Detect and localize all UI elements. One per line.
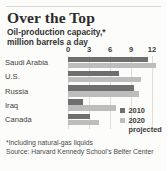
category-label: Iraq: [5, 101, 18, 110]
top-rule-divider: [6, 6, 161, 7]
x-tick-label: 0: [66, 45, 70, 54]
bar-2010: [68, 71, 119, 76]
chart-footnotes: *Including natural-gas liquidsSource: Ha…: [6, 138, 164, 157]
category-label: U.S.: [5, 72, 20, 81]
chart-card: Over the Top Oil-production capacity,* m…: [0, 0, 167, 171]
bar-2020: [68, 91, 139, 96]
legend-entry: 2010: [120, 106, 167, 115]
bar-2020: [68, 105, 116, 110]
x-tick-label: 6: [108, 45, 112, 54]
bar-row: Russia: [0, 85, 167, 99]
bar-2010: [68, 57, 148, 62]
bar-2010: [68, 99, 83, 104]
bar-2010: [68, 85, 134, 90]
legend-label: 2010: [129, 106, 168, 115]
chart-title: Over the Top: [7, 9, 95, 26]
footnote-line: Source: Harvard Kennedy School's Belfer …: [6, 147, 164, 156]
legend-label: 2020projected: [129, 116, 168, 134]
x-tick-label: 12: [148, 45, 156, 54]
legend-entry: 2020projected: [120, 116, 167, 134]
category-label: Canada: [5, 115, 32, 124]
x-axis-tick-labels: 036912: [0, 45, 167, 56]
category-label: Saudi Arabia: [5, 58, 48, 67]
x-tick-label: 9: [129, 45, 133, 54]
legend-swatch: [120, 108, 125, 113]
bar-2020: [68, 120, 99, 125]
chart-subtitle-line-1: Oil-production capacity,*: [7, 27, 127, 37]
chart-legend: 20102020projected: [120, 106, 167, 135]
category-label: Russia: [5, 87, 28, 96]
x-tick-label: 3: [87, 45, 91, 54]
footnote-line: *Including natural-gas liquids: [6, 138, 164, 147]
bar-row: U.S.: [0, 70, 167, 84]
bar-2020: [68, 63, 156, 68]
legend-swatch: [120, 118, 125, 123]
bar-2010: [68, 114, 90, 119]
bar-2020: [68, 77, 141, 82]
legend-sublabel: projected: [129, 125, 168, 134]
bar-row: Saudi Arabia: [0, 56, 167, 70]
